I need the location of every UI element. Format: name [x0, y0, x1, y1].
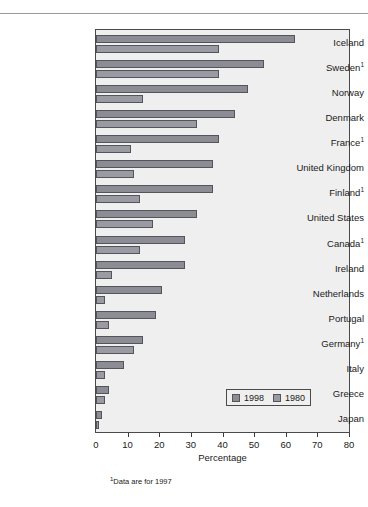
bar-1998 [96, 361, 124, 369]
bar-1980 [96, 195, 140, 203]
x-tick-mark [286, 433, 287, 437]
x-axis-title: Percentage [95, 452, 350, 463]
bar-1998 [96, 185, 213, 193]
bar-1980 [96, 95, 143, 103]
footnote-marker: 1 [360, 236, 364, 243]
category-label: Sweden1 [278, 63, 368, 73]
bar-1980 [96, 271, 112, 279]
bar-1998 [96, 210, 197, 218]
category-label: Portugal [278, 314, 368, 324]
legend-swatch-1980 [273, 394, 281, 402]
bar-1980 [96, 170, 134, 178]
bar-1998 [96, 236, 185, 244]
category-label: Norway [278, 88, 368, 98]
legend-item-1998: 1998 [232, 393, 264, 403]
footnote-marker: 1 [360, 337, 364, 344]
category-label: Italy [278, 364, 368, 374]
category-label: France1 [278, 138, 368, 148]
x-tick-label: 10 [115, 439, 141, 450]
bar-1998 [96, 35, 295, 43]
x-tick-mark [191, 433, 192, 437]
legend-label-1998: 1998 [244, 393, 264, 403]
x-tick-mark [254, 433, 255, 437]
chart-footnote: 1Data are for 1997 [110, 477, 172, 487]
footnote-marker: 1 [360, 61, 364, 68]
category-label: Germany1 [278, 339, 368, 349]
footnote-text: Data are for 1997 [113, 477, 171, 486]
x-tick-label: 50 [241, 439, 267, 450]
x-tick-mark [223, 433, 224, 437]
x-tick-mark [349, 433, 350, 437]
legend-swatch-1998 [232, 394, 240, 402]
bar-1980 [96, 321, 109, 329]
x-tick-label: 70 [304, 439, 330, 450]
bar-1998 [96, 286, 162, 294]
bar-1998 [96, 60, 264, 68]
bar-1980 [96, 296, 105, 304]
bar-1980 [96, 346, 134, 354]
bar-1980 [96, 371, 105, 379]
x-tick-mark [159, 433, 160, 437]
bar-1980 [96, 421, 99, 429]
category-label: Japan [278, 414, 368, 424]
x-tick-label: 30 [178, 439, 204, 450]
bar-1980 [96, 120, 197, 128]
category-label: United Kingdom [278, 163, 368, 173]
bar-1980 [96, 396, 105, 404]
bar-1980 [96, 145, 131, 153]
bar-1998 [96, 85, 248, 93]
bar-1980 [96, 246, 140, 254]
x-tick-label: 0 [83, 439, 109, 450]
bar-1980 [96, 70, 219, 78]
category-label: Denmark [278, 113, 368, 123]
category-label: United States [278, 213, 368, 223]
bar-chart-figure: IcelandSweden1NorwayDenmarkFrance1United… [0, 0, 368, 507]
bar-1998 [96, 311, 156, 319]
x-tick-mark [317, 433, 318, 437]
x-tick-label: 60 [273, 439, 299, 450]
category-label: Canada1 [278, 239, 368, 249]
bar-1998 [96, 336, 143, 344]
footnote-marker: 1 [360, 136, 364, 143]
category-label: Netherlands [278, 289, 368, 299]
footnote-marker: 1 [360, 186, 364, 193]
bar-1998 [96, 411, 102, 419]
x-tick-mark [128, 433, 129, 437]
bar-1998 [96, 386, 109, 394]
bar-1998 [96, 110, 235, 118]
category-label: Ireland [278, 264, 368, 274]
chart-legend: 1998 1980 [226, 389, 311, 406]
x-tick-label: 20 [146, 439, 172, 450]
bar-1980 [96, 220, 153, 228]
x-tick-label: 40 [210, 439, 236, 450]
bar-1998 [96, 135, 219, 143]
x-tick-label: 80 [336, 439, 362, 450]
bar-1998 [96, 160, 213, 168]
bar-1980 [96, 45, 219, 53]
category-label: Finland1 [278, 188, 368, 198]
category-label: Iceland [278, 38, 368, 48]
legend-item-1980: 1980 [273, 393, 305, 403]
legend-label-1980: 1980 [285, 393, 305, 403]
bar-1998 [96, 261, 185, 269]
